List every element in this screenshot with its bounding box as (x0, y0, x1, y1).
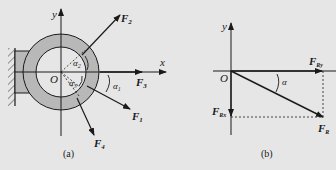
force-fry-label: FRy (308, 55, 323, 68)
caption-a: (a) (63, 148, 74, 160)
force-f1-arrow (87, 86, 130, 109)
caption-b: (b) (261, 148, 273, 160)
origin-b-label: O (220, 72, 228, 84)
angle-alpha-arc (276, 74, 279, 92)
force-fr-arrow (231, 71, 323, 117)
diagram-canvas: y x O F2 F3 F1 F4 α1 α2 α3 (a) y O α FRy… (0, 0, 336, 170)
force-f4-arrow (77, 98, 94, 135)
force-f1-label: F1 (131, 110, 143, 124)
force-f3-label: F3 (135, 76, 147, 90)
angle-alpha1-label: α1 (113, 81, 121, 92)
force-fr-label: FR (317, 122, 329, 135)
angle-alpha1-arc (106, 75, 110, 92)
y-axis-b-label: y (221, 20, 227, 32)
fixed-wall (8, 48, 15, 106)
angle-alpha-label: α (282, 77, 287, 87)
force-f2-label: F2 (120, 12, 132, 26)
force-f4-label: F4 (93, 137, 105, 151)
figure-b: y O α FRy FRx FR (b) (211, 20, 336, 160)
x-axis-label: x (159, 56, 165, 68)
force-frx-label: FRx (211, 105, 226, 118)
force-f2-arrow (82, 15, 120, 55)
y-axis-label: y (51, 8, 57, 20)
figure-a: y x O F2 F3 F1 F4 α1 α2 α3 (a) (8, 8, 166, 160)
origin-label: O (50, 73, 58, 85)
